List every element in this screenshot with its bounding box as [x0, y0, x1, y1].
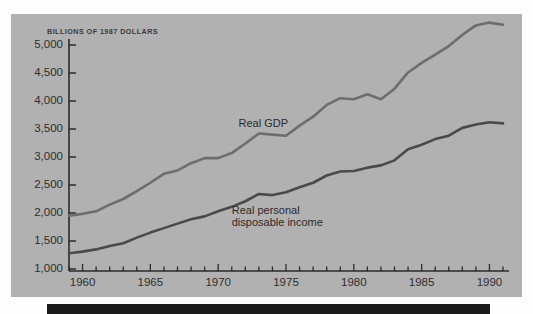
series-annotation-label: Real personaldisposable income — [232, 204, 323, 229]
axes-group — [69, 39, 509, 271]
y-axis-tick-label: 1,500 — [17, 234, 63, 246]
chart-plot-area — [0, 0, 533, 314]
figure-container: BILLIONS OF 1987 DOLLARS 1,0001,5002,000… — [0, 0, 533, 314]
y-axis-tick-label: 4,500 — [17, 66, 63, 78]
y-axis-tick-label: 2,000 — [17, 206, 63, 218]
x-axis-tick-label: 1985 — [400, 276, 444, 288]
y-axis-tick-label: 5,000 — [17, 38, 63, 50]
bottom-decorative-bar — [47, 304, 490, 314]
y-axis-tick-label: 4,000 — [17, 94, 63, 106]
y-axis-tick-label: 2,500 — [17, 178, 63, 190]
y-axis-tick-label: 3,500 — [17, 122, 63, 134]
x-axis-tick-label: 1965 — [128, 276, 172, 288]
series-line-real-personal-disposable-income — [69, 122, 503, 253]
y-axis-tick-label: 3,000 — [17, 150, 63, 162]
series-annotation-label: Real GDP — [239, 117, 289, 130]
x-axis-tick-label: 1990 — [467, 276, 511, 288]
x-axis-tick-label: 1980 — [332, 276, 376, 288]
x-axis-tick-label: 1960 — [61, 276, 105, 288]
x-axis-tick-label: 1970 — [196, 276, 240, 288]
x-axis-tick-label: 1975 — [264, 276, 308, 288]
y-axis-tick-label: 1,000 — [17, 262, 63, 274]
